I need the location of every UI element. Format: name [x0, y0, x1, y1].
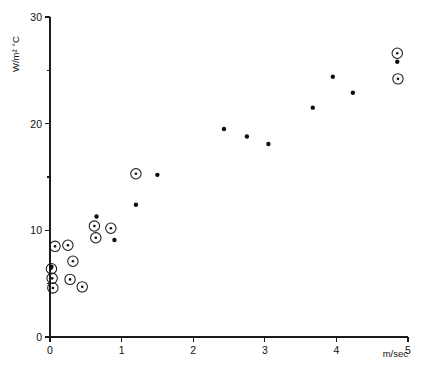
data-point-ring-core — [72, 260, 75, 263]
data-points — [46, 48, 403, 293]
y-tick-label: 10 — [30, 224, 42, 236]
data-point-ring-core — [396, 52, 399, 55]
data-point-ring-core — [52, 287, 55, 290]
data-point-dot — [351, 91, 355, 95]
data-point-dot — [134, 203, 138, 207]
data-point-dot — [155, 173, 159, 177]
axes — [50, 17, 408, 337]
data-point-dot — [222, 127, 226, 131]
data-point-dot — [311, 105, 315, 109]
data-point-dot — [395, 60, 399, 64]
axis-tick-labels: 0102030012345 — [30, 11, 411, 356]
y-tick-label: 0 — [36, 331, 42, 343]
y-axis-label: W/m² °C — [10, 36, 21, 72]
series-circled-marker — [46, 48, 403, 293]
data-point-ring-core — [110, 227, 113, 230]
data-point-ring-core — [93, 225, 96, 228]
data-point-ring-core — [81, 286, 84, 289]
data-point-dot — [94, 214, 98, 218]
x-axis-label: m/sec — [383, 348, 409, 359]
data-point-ring-core — [69, 278, 72, 281]
data-point-dot — [245, 134, 249, 138]
data-point-ring-core — [54, 245, 57, 248]
x-tick-label: 3 — [262, 344, 268, 356]
scatter-chart: 0102030012345 W/m² °C m/sec — [0, 0, 429, 372]
plot-area: 0102030012345 W/m² °C m/sec — [0, 0, 429, 372]
data-point-dot — [266, 142, 270, 146]
data-point-dot — [49, 264, 53, 268]
data-point-ring-core — [67, 244, 70, 247]
y-tick-label: 20 — [30, 118, 42, 130]
x-tick-label: 0 — [47, 344, 53, 356]
data-point-ring-core — [95, 237, 98, 240]
x-tick-label: 2 — [190, 344, 196, 356]
data-point-dot — [112, 238, 116, 242]
data-point-ring-core — [135, 173, 138, 176]
axis-ticks — [45, 17, 408, 342]
data-point-dot — [331, 75, 335, 79]
data-point-ring-core — [397, 78, 400, 81]
axis-frame — [50, 17, 408, 337]
series-plain-dot — [49, 60, 399, 269]
data-point-ring-core — [51, 277, 54, 280]
x-tick-label: 1 — [119, 344, 125, 356]
x-tick-label: 4 — [333, 344, 339, 356]
y-tick-label: 30 — [30, 11, 42, 23]
